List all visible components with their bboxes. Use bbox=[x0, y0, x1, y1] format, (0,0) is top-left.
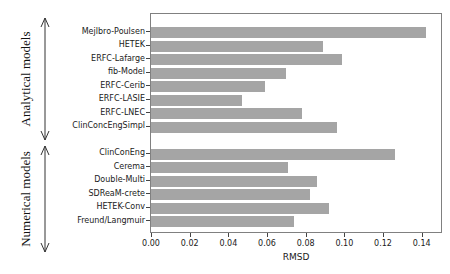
y-tick-mark bbox=[146, 180, 150, 181]
y-tick-label: Cerema bbox=[3, 162, 145, 172]
x-tick-label: 0.14 bbox=[407, 239, 437, 248]
x-tick-mark bbox=[306, 233, 307, 237]
y-tick-mark bbox=[146, 153, 150, 154]
x-tick-mark bbox=[267, 233, 268, 237]
y-tick-label: ERFC-LNEC bbox=[3, 108, 145, 118]
bar bbox=[151, 95, 242, 106]
y-tick-label: HETEK-Conv bbox=[3, 202, 145, 212]
y-tick-label: ClinConcEngSimpl bbox=[3, 121, 145, 131]
x-tick-label: 0.08 bbox=[291, 239, 321, 248]
x-tick-mark bbox=[151, 233, 152, 237]
bar bbox=[151, 189, 310, 200]
bar bbox=[151, 54, 342, 65]
y-tick-label: ClinConEng bbox=[3, 148, 145, 158]
y-tick-mark bbox=[146, 207, 150, 208]
y-tick-label: fib-Model bbox=[3, 67, 145, 77]
y-tick-label: ERFC-Lafarge bbox=[3, 54, 145, 64]
x-axis-title: RMSD bbox=[246, 252, 346, 262]
bar bbox=[151, 203, 329, 214]
y-tick-mark bbox=[146, 99, 150, 100]
y-tick-mark bbox=[146, 193, 150, 194]
y-tick-label: Mejlbro-Poulsen bbox=[3, 27, 145, 37]
y-tick-mark bbox=[146, 31, 150, 32]
bar bbox=[151, 41, 323, 52]
plot-area bbox=[150, 13, 442, 233]
x-tick-mark bbox=[422, 233, 423, 237]
y-tick-mark bbox=[146, 72, 150, 73]
x-tick-label: 0.06 bbox=[252, 239, 282, 248]
y-tick-mark bbox=[146, 85, 150, 86]
x-tick-label: 0.04 bbox=[213, 239, 243, 248]
bar bbox=[151, 81, 265, 92]
y-tick-label: SDReaM-crete bbox=[3, 189, 145, 199]
bar-chart-figure: Analytical models Numerical models RMSD … bbox=[0, 0, 450, 274]
x-tick-label: 0.10 bbox=[329, 239, 359, 248]
x-tick-label: 0.12 bbox=[368, 239, 398, 248]
bar bbox=[151, 68, 286, 79]
y-tick-mark bbox=[146, 166, 150, 167]
y-tick-mark bbox=[146, 45, 150, 46]
x-tick-mark bbox=[228, 233, 229, 237]
y-tick-mark bbox=[146, 58, 150, 59]
y-tick-mark bbox=[146, 112, 150, 113]
x-tick-mark bbox=[383, 233, 384, 237]
bar bbox=[151, 108, 302, 119]
bar bbox=[151, 176, 317, 187]
bar bbox=[151, 162, 288, 173]
bar bbox=[151, 149, 395, 160]
x-tick-mark bbox=[344, 233, 345, 237]
bar bbox=[151, 27, 426, 38]
bar bbox=[151, 216, 294, 227]
y-tick-label: HETEK bbox=[3, 40, 145, 50]
y-tick-label: Double-Multi bbox=[3, 175, 145, 185]
x-tick-mark bbox=[190, 233, 191, 237]
y-tick-mark bbox=[146, 126, 150, 127]
x-tick-label: 0.00 bbox=[136, 239, 166, 248]
x-tick-label: 0.02 bbox=[175, 239, 205, 248]
y-tick-label: ERFC-LASIE bbox=[3, 94, 145, 104]
bar bbox=[151, 122, 337, 133]
y-tick-mark bbox=[146, 220, 150, 221]
y-tick-label: ERFC-Cerib bbox=[3, 81, 145, 91]
y-tick-label: Freund/Langmuir bbox=[3, 216, 145, 226]
